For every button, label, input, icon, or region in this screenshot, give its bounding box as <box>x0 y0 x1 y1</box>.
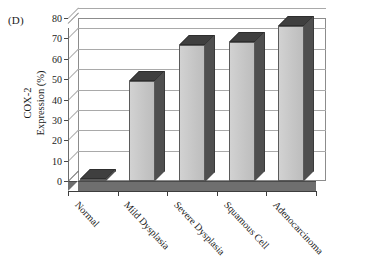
y-axis-line <box>68 28 69 181</box>
x-tick-mark <box>118 191 119 196</box>
bar-front-face <box>229 42 255 181</box>
y-tick-label: 10 <box>52 155 62 166</box>
y-tick-mark <box>64 18 68 19</box>
bar-side-face <box>205 35 215 182</box>
y-tick-mark <box>64 100 68 101</box>
x-axis-label-squamous-cell: Squamous Cell <box>222 199 272 251</box>
y-tick-label: 50 <box>52 74 62 85</box>
bar-side-face <box>255 32 265 181</box>
y-tick-label: 0 <box>57 176 62 187</box>
y-tick-mark <box>64 38 68 39</box>
bar-mild-dysplasia <box>129 81 155 181</box>
bar-side-face <box>304 16 314 181</box>
bar-adenocarcinoma <box>278 26 304 181</box>
x-tick-mark <box>68 191 69 196</box>
bar-front-face <box>179 45 205 182</box>
y-axis-title-line-1: COX-2 <box>21 70 34 135</box>
y-tick-mark <box>64 59 68 60</box>
y-axis-title: COX-2 Expression (%) <box>14 38 54 168</box>
panel-label: (D) <box>8 14 24 26</box>
bar-side-face <box>155 71 165 181</box>
y-tick-label: 20 <box>52 135 62 146</box>
x-axis-label-severe-dysplasia: Severe Dysplasia <box>172 199 227 257</box>
x-axis-label-normal: Normal <box>73 199 102 229</box>
x-tick-mark <box>266 191 267 196</box>
figure-panel-d: (D) COX-2 Expression (%) 010203040506070… <box>0 0 366 257</box>
x-tick-mark <box>316 191 317 196</box>
y-axis-title-line-2: Expression (%) <box>34 70 47 135</box>
plot-area: 01020304050607080 <box>68 18 326 191</box>
y-tick-label: 80 <box>52 13 62 24</box>
x-axis-label-mild-dysplasia: Mild Dysplasia <box>122 199 172 251</box>
bar-front-face <box>129 81 155 181</box>
bar-front-face <box>278 26 304 181</box>
y-tick-label: 30 <box>52 114 62 125</box>
y-tick-label: 70 <box>52 33 62 44</box>
bar-severe-dysplasia <box>179 45 205 182</box>
y-tick-mark <box>64 79 68 80</box>
y-tick-label: 60 <box>52 53 62 64</box>
y-tick-label: 40 <box>52 94 62 105</box>
x-axis-label-adenocarcinoma: Adenocarcinoma <box>271 199 326 256</box>
y-tick-mark <box>64 120 68 121</box>
gridline <box>78 8 326 9</box>
x-tick-mark <box>167 191 168 196</box>
x-tick-mark <box>217 191 218 196</box>
x-axis-line <box>68 191 316 192</box>
y-tick-mark <box>64 140 68 141</box>
bar-squamous-cell <box>229 42 255 181</box>
y-tick-mark <box>64 161 68 162</box>
